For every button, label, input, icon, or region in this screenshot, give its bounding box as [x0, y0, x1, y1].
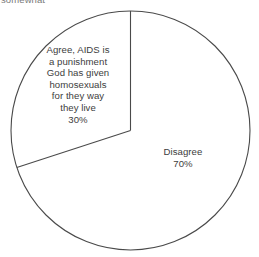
pie-chart: somewhat Agree, AIDS is a punishment God…	[0, 0, 259, 257]
slice-label-disagree-line-1: Disagree	[164, 146, 203, 157]
pie-chart-graphic	[0, 0, 259, 257]
slice-label-agree-line-6: they live	[60, 102, 96, 113]
slice-label-agree-line-3: God has given	[47, 67, 110, 78]
slice-label-agree: Agree, AIDS is a punishment God has give…	[26, 44, 130, 125]
slice-label-disagree: Disagree 70%	[150, 146, 216, 169]
slice-value-disagree: 70%	[150, 158, 216, 170]
slice-label-agree-line-1: Agree, AIDS is	[46, 44, 109, 55]
slice-label-agree-line-5: for they way	[52, 90, 104, 101]
slice-label-agree-line-2: a punishment	[49, 56, 107, 67]
slice-value-agree: 30%	[26, 114, 130, 126]
slice-label-agree-line-4: homosexuals	[49, 79, 106, 90]
